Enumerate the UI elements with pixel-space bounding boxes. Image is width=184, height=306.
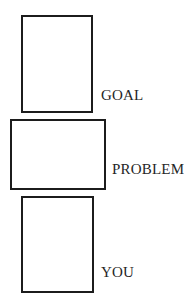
diagram-canvas: GOAL PROBLEM YOU [0, 0, 184, 306]
you-box [21, 196, 94, 293]
problem-label: PROBLEM [112, 162, 184, 177]
problem-box [10, 119, 106, 190]
goal-box [21, 15, 93, 113]
goal-label: GOAL [101, 88, 143, 103]
you-label: YOU [101, 265, 134, 280]
